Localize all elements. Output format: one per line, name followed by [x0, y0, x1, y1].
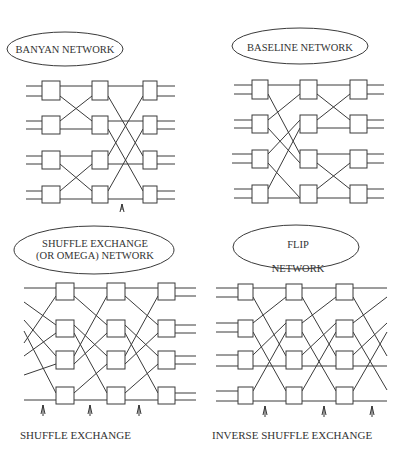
baseline-title: BASELINE NETWORK [247, 42, 353, 53]
switch-box [350, 185, 367, 203]
switch-box [143, 186, 157, 203]
omega-caption: SHUFFLE EXCHANGE [20, 429, 131, 441]
switch-box [107, 351, 125, 369]
switch-box [252, 80, 268, 99]
switch-box [252, 185, 268, 203]
switch-box [252, 150, 268, 168]
omega-network-panel: SHUFFLE EXCHANGE (OR OMEGA) NETWORK [14, 226, 196, 441]
banyan-wires [26, 86, 175, 199]
switch-box [92, 186, 108, 203]
flip-caption: INVERSE SHUFFLE EXCHANGE [212, 429, 372, 441]
switch-box [42, 151, 60, 169]
switch-box [56, 387, 74, 404]
switch-box [350, 115, 367, 133]
omega-switches [56, 283, 175, 404]
flip-wires [216, 288, 387, 401]
omega-stage-arrows [41, 405, 141, 416]
switch-box [143, 151, 157, 169]
switch-box [300, 80, 317, 99]
banyan-arrow-icon [120, 204, 124, 212]
flip-stage-arrows [263, 406, 374, 417]
switch-box [286, 387, 302, 404]
switch-box [158, 351, 175, 369]
flip-network-panel: FLIP NETWORK [212, 225, 387, 441]
switch-box [336, 387, 353, 404]
baseline-network-panel: BASELINE NETWORK [232, 28, 384, 203]
switch-box [158, 283, 175, 300]
switch-box [286, 320, 302, 337]
up-arrow-icon [322, 406, 326, 417]
up-arrow-icon [41, 405, 45, 416]
switch-box [350, 150, 367, 168]
switch-box [42, 81, 60, 100]
switch-box [56, 283, 74, 300]
switch-box [42, 116, 60, 134]
up-arrow-icon [263, 406, 267, 417]
switch-box [107, 320, 125, 337]
switch-box [107, 283, 125, 300]
switch-box [158, 387, 175, 404]
switch-box [238, 351, 253, 369]
switch-box [92, 116, 108, 134]
switch-box [56, 320, 74, 337]
switch-box [143, 81, 157, 100]
switch-box [238, 320, 253, 337]
banyan-title: BANYAN NETWORK [16, 44, 115, 55]
switch-box [238, 284, 253, 300]
up-arrow-icon [370, 406, 374, 417]
flip-title-line-2: NETWORK [272, 263, 325, 274]
baseline-switches [252, 80, 367, 203]
up-arrow-icon [137, 405, 141, 416]
omega-title-line-2: (OR OMEGA) NETWORK [36, 250, 154, 262]
flip-title-line-1: FLIP [287, 239, 309, 250]
baseline-wires [232, 85, 384, 198]
switch-box [56, 351, 74, 369]
switch-box [42, 186, 60, 203]
switch-box [107, 387, 125, 404]
switch-box [300, 185, 317, 203]
switch-box [286, 351, 302, 369]
up-arrow-icon [88, 405, 92, 416]
switch-box [252, 115, 268, 133]
omega-title-line-1: SHUFFLE EXCHANGE [42, 238, 148, 249]
network-diagram: BANYAN NETWORK [0, 0, 407, 463]
switch-box [92, 151, 108, 169]
omega-wires [24, 288, 196, 400]
switch-box [143, 116, 157, 134]
switch-box [336, 351, 353, 369]
switch-box [336, 320, 353, 337]
switch-box [92, 81, 108, 100]
switch-box [158, 320, 175, 337]
switch-box [336, 284, 353, 300]
switch-box [238, 387, 253, 404]
switch-box [300, 150, 317, 168]
banyan-network-panel: BANYAN NETWORK [7, 32, 175, 212]
switch-box [286, 284, 302, 300]
switch-box [300, 115, 317, 133]
switch-box [350, 80, 367, 99]
